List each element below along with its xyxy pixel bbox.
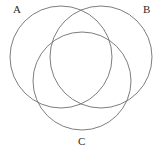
venn-diagram-canvas: [0, 0, 161, 151]
set-label-c: C: [78, 136, 85, 147]
venn-circle-b: [50, 6, 152, 108]
venn-circle-c: [33, 32, 131, 130]
set-label-b: B: [143, 4, 150, 15]
set-label-a: A: [13, 4, 21, 15]
venn-diagram-figure: A B C: [0, 0, 161, 151]
venn-circle-a: [10, 6, 112, 108]
